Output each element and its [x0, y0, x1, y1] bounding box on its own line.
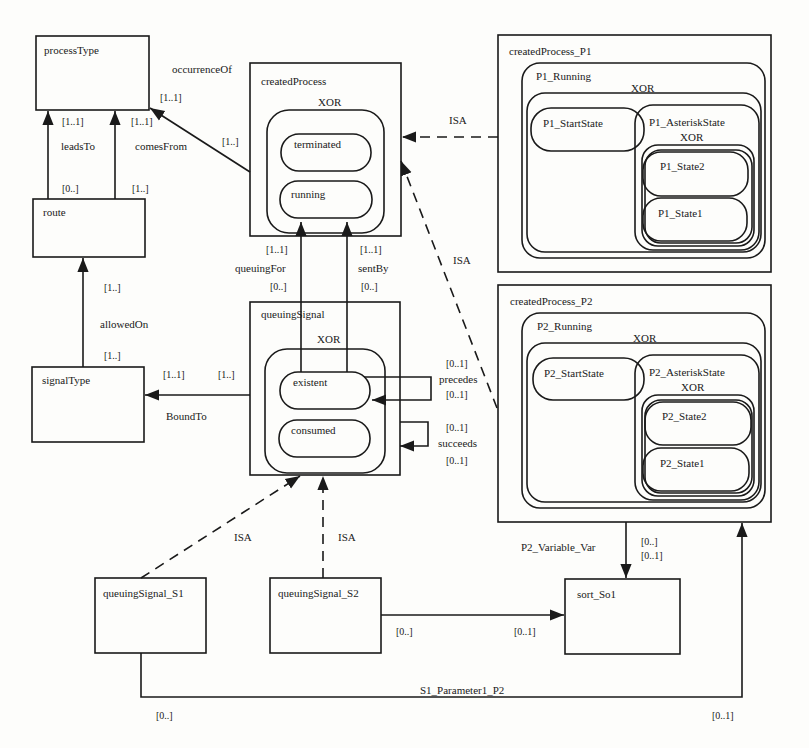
allowedOn-card-target: [1..] [104, 282, 121, 294]
s1-parameter1-p2-card-target: [0..1] [712, 710, 734, 722]
succeeds-label: succeeds [438, 437, 477, 449]
processType-label: processType [44, 44, 99, 56]
comesFrom-label: comesFrom [135, 140, 187, 152]
boundTo-label: BoundTo [166, 410, 207, 422]
P2_State2-label: P2_State2 [662, 410, 707, 422]
createdProcess-label: createdProcess [261, 75, 326, 87]
P2_State1-label: P2_State1 [660, 457, 705, 469]
comesFrom-card-target: [1..1] [131, 116, 153, 128]
boundTo-card-target: [1..1] [163, 369, 185, 381]
P1_State2-label: P1_State2 [660, 160, 705, 172]
queuingFor-card-target: [1..1] [266, 244, 288, 256]
P2-asterisk-xor-label: XOR [681, 381, 704, 393]
s2-sort-card-target: [0..1] [514, 626, 536, 638]
signalType-label: signalType [42, 374, 90, 386]
P2_Running-label: P2_Running [537, 320, 592, 332]
P2_StartState-label: P2_StartState [544, 367, 604, 379]
P1-asterisk-xor-label: XOR [680, 131, 703, 143]
P1_Running-label: P1_Running [536, 70, 591, 82]
queuingSignal-label: queuingSignal [261, 308, 325, 320]
precedes-card-top: [0..1] [446, 358, 468, 370]
p2-variable-var-card-target: [0..1] [641, 550, 663, 562]
boundTo-card-source: [1..] [218, 369, 235, 381]
queuingSignal_S2-label: queuingSignal_S2 [278, 587, 359, 599]
queuingSignal-xor-label: XOR [317, 333, 340, 345]
leadsTo-label: leadsTo [61, 140, 95, 152]
route-label: route [43, 206, 66, 218]
queuingSignal_S1-label: queuingSignal_S1 [103, 587, 184, 599]
P2-xor-label: XOR [633, 332, 656, 344]
comesFrom-card-source: [1..] [132, 183, 149, 195]
leadsTo-card-target: [1..1] [62, 116, 84, 128]
occurrenceOf-card-target: [1..1] [160, 92, 182, 104]
p2-variable-var-label: P2_Variable_Var [521, 541, 596, 553]
leadsTo-card-source: [0..] [62, 183, 79, 195]
createdProcess-xor-label: XOR [318, 96, 341, 108]
succeeds-card-top: [0..1] [446, 422, 468, 434]
succeeds-card-bottom: [0..1] [446, 455, 468, 467]
occurrenceOf-card-source: [1..] [222, 136, 239, 148]
createdProcess_P2-label: createdProcess_P2 [510, 295, 592, 307]
state-consumed: consumed [291, 424, 336, 436]
s1-parameter1-p2-label: S1_Parameter1_P2 [420, 684, 504, 696]
s1-parameter1-p2-card-source: [0..] [156, 710, 173, 722]
allowedOn-label: allowedOn [100, 318, 148, 330]
queuingFor-label: queuingFor [235, 262, 286, 274]
queuingSignal-box [250, 302, 400, 475]
precedes-label: precedes [439, 373, 477, 385]
P1-xor-label: XOR [631, 82, 654, 94]
isa-s1-label: ISA [234, 531, 252, 543]
sentBy-card-target: [1..1] [360, 244, 382, 256]
occurrenceOf-label: occurrenceOf [172, 63, 232, 75]
allowedOn-card-source: [1..] [104, 350, 121, 362]
P1_StartState-label: P1_StartState [543, 117, 603, 129]
P2_AsteriskState-label: P2_AsteriskState [649, 366, 725, 378]
precedes-card-bottom: [0..1] [446, 389, 468, 401]
isa-s2-label: ISA [338, 531, 356, 543]
p2-variable-var-card-source: [0..] [641, 536, 658, 548]
P1_State1-label: P1_State1 [658, 207, 703, 219]
createdProcess_P1-label: createdProcess_P1 [509, 45, 591, 57]
P1_AsteriskState-label: P1_AsteriskState [649, 116, 725, 128]
state-existent: existent [293, 376, 327, 388]
sort_So1-label: sort_So1 [577, 588, 616, 600]
sentBy-label: sentBy [358, 262, 389, 274]
s2-sort-card-source: [0..] [396, 626, 413, 638]
isa-p1-label: ISA [449, 114, 467, 126]
state-running: running [291, 188, 325, 200]
state-terminated: terminated [294, 138, 341, 150]
sentBy-card-source: [0..] [361, 281, 378, 293]
isa-p2-label: ISA [453, 254, 471, 266]
queuingFor-card-source: [0..] [270, 281, 287, 293]
